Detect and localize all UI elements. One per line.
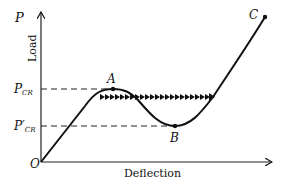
snap-through-arrows <box>100 93 215 101</box>
x-axis-label: Deflection <box>124 167 181 180</box>
y-axis-label: Load <box>26 34 39 62</box>
point-a-label: A <box>106 72 116 86</box>
pcr-prime-subscript: CR <box>25 126 36 134</box>
point-a-marker <box>111 87 115 91</box>
point-b-label: B <box>169 131 179 145</box>
y-axis-symbol: P <box>14 10 24 25</box>
load-deflection-diagram: P Load O Deflection PCR P′CR A B C <box>0 0 285 182</box>
origin-label: O <box>30 157 40 171</box>
pcr-subscript: CR <box>22 89 33 97</box>
pcr-label: PCR <box>13 82 33 97</box>
point-c-label: C <box>249 8 258 22</box>
point-c-marker <box>263 15 267 19</box>
point-b-marker <box>173 124 177 128</box>
pcr-prime-label: P′CR <box>13 119 36 134</box>
